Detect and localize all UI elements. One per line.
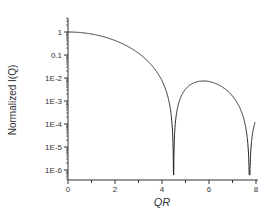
- y-tick-label: 1E-6: [45, 166, 62, 175]
- chart: 10.11E-21E-31E-41E-51E-6 02468 QR Normal…: [0, 0, 273, 219]
- y-axis-label: Normalized I(Q): [7, 65, 18, 136]
- y-tick-label: 1E-3: [45, 97, 62, 106]
- x-tick-label: 8: [254, 185, 259, 194]
- x-axis-label: QR: [154, 196, 171, 208]
- x-tick-label: 6: [207, 185, 212, 194]
- x-axis-ticks: 02468: [66, 180, 259, 194]
- y-tick-label: 0.1: [51, 51, 63, 60]
- y-axis-ticks: 10.11E-21E-31E-41E-51E-6: [45, 18, 68, 179]
- x-tick-label: 4: [160, 185, 165, 194]
- y-tick-label: 1E-4: [45, 120, 62, 129]
- x-tick-label: 0: [66, 185, 71, 194]
- y-tick-label: 1E-2: [45, 74, 62, 83]
- data-line: [68, 32, 255, 175]
- y-tick-label: 1: [58, 28, 63, 37]
- x-tick-label: 2: [113, 185, 118, 194]
- y-tick-label: 1E-5: [45, 143, 62, 152]
